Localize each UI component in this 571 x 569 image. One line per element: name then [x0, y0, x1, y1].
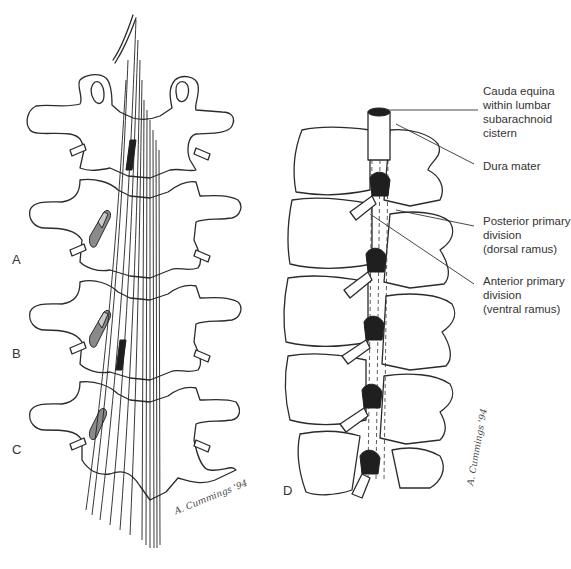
lumbar-spine-figure: A B C D Cauda equina within lumbar subar… — [0, 0, 571, 569]
panel-label-b: B — [12, 346, 21, 361]
posterior-view-illustration — [27, 15, 241, 548]
label-dura-mater: Dura mater — [483, 159, 541, 173]
label-anterior-primary-division: Anterior primary division (ventral ramus… — [483, 274, 565, 316]
panel-label-c: C — [12, 442, 21, 457]
label-posterior-primary-division: Posterior primary division (dorsal ramus… — [483, 214, 571, 256]
panel-label-a: A — [12, 252, 21, 267]
label-cauda-equina: Cauda equina within lumbar subarachnoid … — [483, 84, 555, 140]
lateral-view-illustration — [284, 108, 478, 498]
panel-label-d: D — [283, 483, 292, 498]
